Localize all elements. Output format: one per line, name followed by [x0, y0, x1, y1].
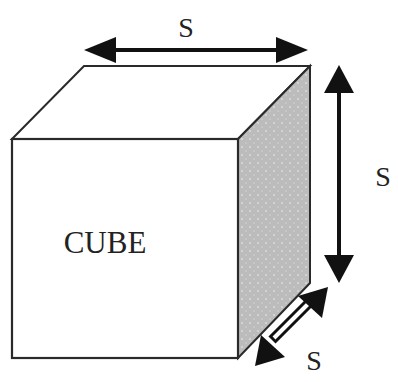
height-arrow [324, 65, 354, 283]
cube-label: CUBE [64, 225, 147, 260]
width-arrow [84, 37, 308, 63]
height-label: S [375, 161, 391, 192]
depth-label: S [306, 345, 322, 376]
width-label: S [178, 12, 194, 43]
cube-diagram: S S S CUBE [0, 0, 398, 382]
